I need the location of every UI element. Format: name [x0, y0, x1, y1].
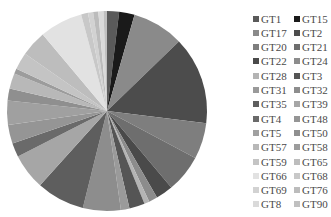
pie-plot-area: [0, 0, 250, 217]
legend-item-gt3: GT3: [294, 69, 322, 82]
legend-item-gt8: GT8: [253, 198, 281, 211]
legend-swatch: [253, 30, 259, 36]
legend-swatch: [294, 87, 300, 93]
legend-label: GT66: [261, 170, 287, 182]
legend-item-gt5: GT5: [253, 126, 281, 139]
legend-swatch: [253, 187, 259, 193]
legend-label: GT28: [261, 70, 287, 82]
legend-swatch: [294, 44, 300, 50]
legend-swatch: [294, 130, 300, 136]
legend-swatch: [253, 144, 259, 150]
legend-label: GT32: [302, 84, 328, 96]
legend-label: GT31: [261, 84, 287, 96]
legend-swatch: [294, 16, 300, 22]
legend-label: GT4: [261, 113, 281, 125]
legend-label: GT1: [261, 13, 281, 25]
legend-item-gt28: GT28: [253, 69, 287, 82]
legend-item-gt48: GT48: [294, 112, 328, 125]
legend-label: GT21: [302, 41, 328, 53]
legend-item-gt50: GT50: [294, 126, 328, 139]
legend-item-gt15: GT15: [294, 12, 328, 25]
legend-label: GT69: [261, 184, 287, 196]
legend-swatch: [253, 201, 259, 207]
legend-swatch: [294, 30, 300, 36]
legend-item-gt58: GT58: [294, 141, 328, 154]
legend-label: GT24: [302, 55, 328, 67]
legend-item-gt59: GT59: [253, 155, 287, 168]
legend-swatch: [253, 44, 259, 50]
legend-item-gt57: GT57: [253, 141, 287, 154]
legend-label: GT59: [261, 156, 287, 168]
pie-chart: GT1GT17GT20GT22GT28GT31GT35GT4GT5GT57GT5…: [0, 0, 331, 217]
legend-item-gt39: GT39: [294, 98, 328, 111]
legend-label: GT2: [302, 27, 322, 39]
legend-swatch: [294, 159, 300, 165]
legend-swatch: [294, 101, 300, 107]
legend-swatch: [294, 173, 300, 179]
legend-label: GT22: [261, 55, 287, 67]
legend-item-gt20: GT20: [253, 41, 287, 54]
legend-item-gt24: GT24: [294, 55, 328, 68]
legend-label: GT90: [302, 198, 328, 210]
legend-swatch: [253, 159, 259, 165]
legend-label: GT65: [302, 156, 328, 168]
legend-label: GT20: [261, 41, 287, 53]
legend-item-gt22: GT22: [253, 55, 287, 68]
legend-swatch: [294, 58, 300, 64]
legend-item-gt32: GT32: [294, 84, 328, 97]
legend-label: GT35: [261, 98, 287, 110]
legend-item-gt1: GT1: [253, 12, 281, 25]
legend-swatch: [294, 116, 300, 122]
legend-swatch: [253, 173, 259, 179]
legend-swatch: [294, 73, 300, 79]
legend-swatch: [253, 73, 259, 79]
legend-label: GT58: [302, 141, 328, 153]
legend-item-gt90: GT90: [294, 198, 328, 211]
legend-label: GT17: [261, 27, 287, 39]
legend-swatch: [253, 101, 259, 107]
legend-item-gt66: GT66: [253, 169, 287, 182]
legend-label: GT68: [302, 170, 328, 182]
legend-label: GT48: [302, 113, 328, 125]
legend-item-gt35: GT35: [253, 98, 287, 111]
legend-label: GT76: [302, 184, 328, 196]
legend-swatch: [253, 58, 259, 64]
legend-item-gt76: GT76: [294, 184, 328, 197]
legend-item-gt68: GT68: [294, 169, 328, 182]
legend-swatch: [253, 87, 259, 93]
legend-label: GT57: [261, 141, 287, 153]
legend-label: GT5: [261, 127, 281, 139]
legend-label: GT8: [261, 198, 281, 210]
legend-label: GT50: [302, 127, 328, 139]
legend-swatch: [253, 116, 259, 122]
legend-item-gt17: GT17: [253, 26, 287, 39]
legend-item-gt31: GT31: [253, 84, 287, 97]
legend-item-gt65: GT65: [294, 155, 328, 168]
legend-label: GT39: [302, 98, 328, 110]
legend-item-gt2: GT2: [294, 26, 322, 39]
legend-swatch: [294, 187, 300, 193]
legend-label: GT15: [302, 13, 328, 25]
legend-item-gt4: GT4: [253, 112, 281, 125]
legend-swatch: [294, 201, 300, 207]
legend-swatch: [294, 144, 300, 150]
legend-swatch: [253, 130, 259, 136]
legend-item-gt21: GT21: [294, 41, 328, 54]
legend-label: GT3: [302, 70, 322, 82]
legend-swatch: [253, 16, 259, 22]
legend-item-gt69: GT69: [253, 184, 287, 197]
